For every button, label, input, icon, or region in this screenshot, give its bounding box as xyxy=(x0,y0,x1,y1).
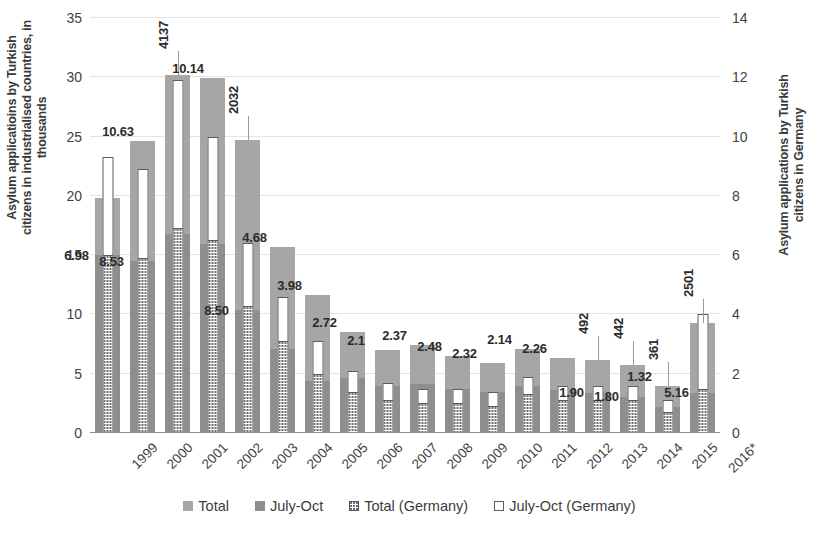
bar-group[interactable] xyxy=(95,18,120,433)
bar-value-label: 2.26 xyxy=(522,341,547,356)
bar-group[interactable] xyxy=(690,18,715,433)
bar-group[interactable] xyxy=(550,18,575,433)
legend-label: Total (Germany) xyxy=(364,498,468,514)
x-tick-label: 2001 xyxy=(198,440,230,472)
bar-germany-july-oct[interactable] xyxy=(207,240,218,433)
y-tick-right: 0 xyxy=(732,426,762,440)
bar-value-label: 5.16 xyxy=(664,385,689,400)
y-axis-right-title: Asylum applications by Turkish citizens … xyxy=(777,65,807,265)
legend-label: July-Oct (Germany) xyxy=(509,498,636,514)
bar-value-label: 10.14 xyxy=(172,61,204,76)
y-tick-left: 35 xyxy=(52,11,82,25)
bar-germany-july-oct[interactable] xyxy=(487,406,498,433)
bar-germany-july-oct[interactable] xyxy=(137,258,148,433)
bar-value-label: 361 xyxy=(646,338,661,359)
bar-group[interactable] xyxy=(375,18,400,433)
y-tick-right: 8 xyxy=(732,189,762,203)
plot-area: 6.988.5310.63413710.1420328.504.683.982.… xyxy=(90,18,720,433)
bar-germany-july-oct[interactable] xyxy=(417,403,428,433)
bar-germany-july-oct[interactable] xyxy=(522,394,533,433)
x-tick-label: 2000 xyxy=(163,440,195,472)
bar-group[interactable] xyxy=(515,18,540,433)
y-tick-left: 10 xyxy=(52,307,82,321)
bar-germany-july-oct[interactable] xyxy=(592,400,603,433)
bar-value-label: 2.14 xyxy=(487,332,512,347)
bar-value-label: 2.72 xyxy=(312,315,337,330)
bar-germany-july-oct[interactable] xyxy=(382,400,393,433)
x-tick-label: 2011 xyxy=(548,440,579,471)
bar-group[interactable] xyxy=(235,18,260,433)
legend-item-july-oct[interactable]: July-Oct xyxy=(255,498,323,514)
y-tick-right: 2 xyxy=(732,367,762,381)
bar-value-label: 1.32 xyxy=(627,369,652,384)
y-tick-left: 5 xyxy=(52,367,82,381)
x-tick-label: 2009 xyxy=(478,440,510,472)
x-tick-label: 2005 xyxy=(338,440,370,472)
bar-value-label: 2032 xyxy=(226,86,241,114)
y-tick-right: 14 xyxy=(732,11,762,25)
bar-germany-july-oct[interactable] xyxy=(102,255,113,433)
label-leader-line xyxy=(598,336,599,360)
bar-group[interactable] xyxy=(445,18,470,433)
bar-germany-july-oct[interactable] xyxy=(172,228,183,433)
bar-group[interactable] xyxy=(130,18,155,433)
bar-value-label: 1.90 xyxy=(559,385,584,400)
y-tick-left: 0 xyxy=(52,426,82,440)
bar-group[interactable] xyxy=(480,18,505,433)
bar-value-label: 8.53 xyxy=(99,254,124,269)
bar-germany-july-oct[interactable] xyxy=(557,400,568,433)
bar-value-label: 4137 xyxy=(156,21,171,49)
legend-swatch-icon xyxy=(494,501,504,511)
bar-germany-july-oct[interactable] xyxy=(452,403,463,433)
y-tick-right: 12 xyxy=(732,70,762,84)
x-tick-label: 2003 xyxy=(268,440,300,472)
x-tick-label: 2008 xyxy=(443,440,475,472)
x-tick-label: 2004 xyxy=(303,440,335,472)
bar-value-label: 10.63 xyxy=(102,124,134,139)
chart-legend: TotalJuly-OctTotal (Germany)July-Oct (Ge… xyxy=(0,498,819,514)
bar-germany-july-oct[interactable] xyxy=(347,392,358,434)
x-tick-label: 2012 xyxy=(583,440,615,472)
x-tick-label: 2007 xyxy=(408,440,440,472)
bar-germany-july-oct[interactable] xyxy=(627,400,638,433)
y-tick-left: 30 xyxy=(52,70,82,84)
y-tick-right: 6 xyxy=(732,248,762,262)
bar-group[interactable] xyxy=(340,18,365,433)
bar-germany-july-oct[interactable] xyxy=(277,341,288,433)
legend-item-total[interactable]: Total xyxy=(183,498,229,514)
bar-value-label: 8.50 xyxy=(204,303,229,318)
legend-item-july-oct-germany[interactable]: July-Oct (Germany) xyxy=(494,498,636,514)
bar-value-label: 2.48 xyxy=(417,339,442,354)
legend-swatch-icon xyxy=(255,501,265,511)
legend-swatch-icon xyxy=(349,501,359,511)
y-axis-left-title: Asylum applicatioins by Turkish citizens… xyxy=(5,13,50,243)
bar-germany-july-oct[interactable] xyxy=(312,374,323,433)
label-leader-line xyxy=(703,299,704,323)
label-leader-line xyxy=(633,341,634,365)
legend-item-total-germany[interactable]: Total (Germany) xyxy=(349,498,468,514)
bar-group[interactable] xyxy=(270,18,295,433)
bar-group[interactable] xyxy=(410,18,435,433)
bar-group[interactable] xyxy=(305,18,330,433)
x-tick-label: 2015 xyxy=(688,440,720,472)
x-tick-label: 1999 xyxy=(128,440,160,472)
chart-container: Asylum applicatioins by Turkish citizens… xyxy=(0,0,819,535)
bar-value-label: 492 xyxy=(576,312,591,333)
bar-value-label: 442 xyxy=(611,318,626,339)
y-tick-left: 25 xyxy=(52,130,82,144)
bar-germany-july-oct[interactable] xyxy=(662,412,673,433)
bar-group[interactable] xyxy=(165,18,190,433)
x-tick-label: 2002 xyxy=(233,440,265,472)
bar-germany-july-oct[interactable] xyxy=(242,306,253,433)
bar-group[interactable] xyxy=(585,18,610,433)
bar-group[interactable] xyxy=(200,18,225,433)
bar-value-label: 2.1 xyxy=(347,333,364,348)
bar-value-label: 3.98 xyxy=(277,278,302,293)
bar-value-label: 2.37 xyxy=(382,328,407,343)
y-tick-right: 10 xyxy=(732,130,762,144)
bar-germany-july-oct[interactable] xyxy=(697,389,708,433)
x-axis-line xyxy=(90,432,720,434)
bar-value-label: 1.80 xyxy=(594,389,619,404)
x-tick-label: 2014 xyxy=(653,440,685,472)
y-tick-left: 20 xyxy=(52,189,82,203)
